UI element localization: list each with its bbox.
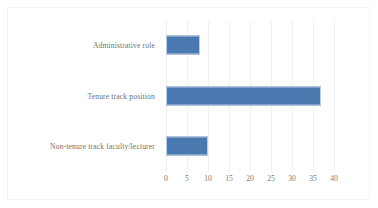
x-tick-label-30: 30 bbox=[288, 174, 296, 183]
bar-row: Administrative role bbox=[159, 20, 352, 71]
bar-series: Administrative role Tenure track positio… bbox=[159, 20, 352, 172]
plot-area: Administrative role Tenure track positio… bbox=[159, 20, 352, 172]
bar-tenure-track-position[interactable] bbox=[166, 86, 321, 105]
category-label-non-tenure-track-faculty-lecturer: Non-tenure track faculty/lecturer bbox=[50, 142, 155, 151]
bar-row: Tenure track position bbox=[159, 71, 352, 122]
category-label-administrative-role: Administrative role bbox=[93, 41, 155, 50]
x-tick-label-20: 20 bbox=[246, 174, 254, 183]
x-tick-label-5: 5 bbox=[185, 174, 189, 183]
x-tick-label-15: 15 bbox=[225, 174, 233, 183]
x-axis-tick-labels: 0 5 10 15 20 25 30 35 40 bbox=[159, 174, 352, 188]
bar-non-tenure-track-faculty-lecturer[interactable] bbox=[166, 137, 208, 156]
x-tick-label-25: 25 bbox=[267, 174, 275, 183]
bar-administrative-role[interactable] bbox=[166, 36, 200, 55]
x-tick-label-0: 0 bbox=[164, 174, 168, 183]
x-tick-label-35: 35 bbox=[309, 174, 317, 183]
x-tick-label-10: 10 bbox=[204, 174, 212, 183]
category-label-tenure-track-position: Tenure track position bbox=[87, 91, 155, 100]
bar-row: Non-tenure track faculty/lecturer bbox=[159, 121, 352, 172]
x-tick-label-40: 40 bbox=[330, 174, 338, 183]
